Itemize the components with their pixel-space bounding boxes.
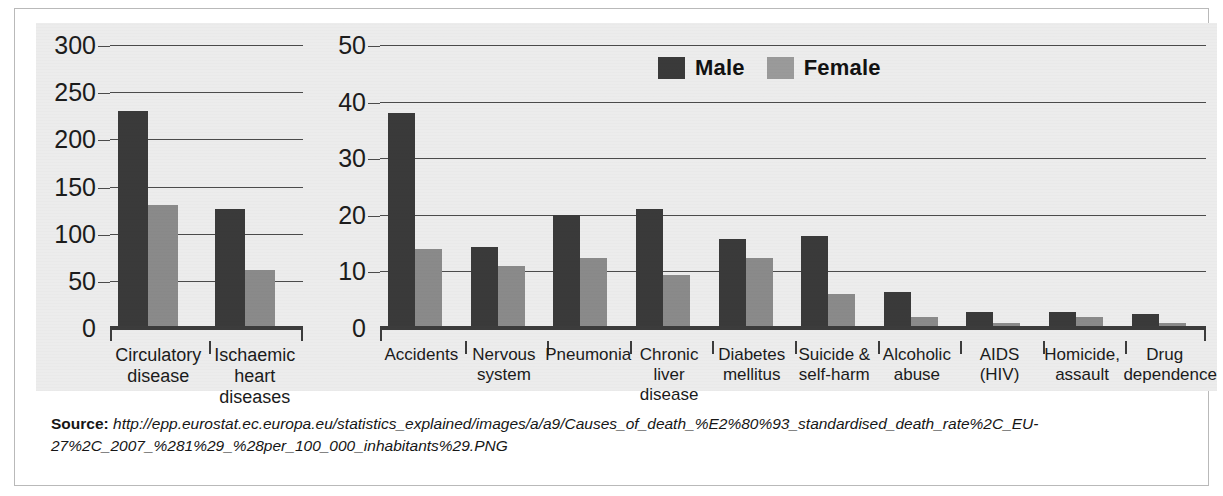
category-label-line: Chronic liver	[628, 345, 711, 385]
source-line-2: 27%2C_2007_%281%29_%28per_100_000_inhabi…	[51, 435, 1201, 457]
category-label-line: system	[463, 365, 546, 385]
y-tick-50	[98, 282, 110, 283]
y-tick-300	[98, 46, 110, 47]
bar-group	[793, 45, 876, 328]
category-label-line: Pneumonia	[545, 345, 628, 365]
category-label-line: heart	[207, 366, 304, 387]
bar-group	[1041, 45, 1124, 328]
category-label: Suicide &self-harm	[793, 345, 876, 385]
category-label: Diabetesmellitus	[710, 345, 793, 385]
bar-group	[710, 45, 793, 328]
category-label: Ischaemicheartdiseases	[207, 345, 304, 408]
source-url-line-1: http://epp.eurostat.ec.europa.eu/statist…	[113, 415, 1038, 432]
bar-group	[1123, 45, 1206, 328]
category-label-line: Nervous	[463, 345, 546, 365]
bar-female[interactable]	[663, 275, 690, 328]
bar-male[interactable]	[719, 239, 746, 328]
left-bars	[110, 45, 303, 328]
category-label-line: disease	[110, 366, 207, 387]
y-tick-30	[368, 159, 380, 160]
y-tick-label-50: 50	[338, 33, 366, 58]
y-tick-20	[368, 216, 380, 217]
category-label-line: assault	[1041, 365, 1124, 385]
bar-female[interactable]	[828, 294, 855, 328]
y-tick-label-150: 150	[54, 174, 96, 199]
bar-male[interactable]	[884, 292, 911, 328]
category-label: Pneumonia	[545, 345, 628, 365]
right-plot-area: 01020304050 AccidentsNervoussystemPneumo…	[380, 45, 1206, 328]
category-label-line: disease	[628, 385, 711, 405]
source-line-1: Source: http://epp.eurostat.ec.europa.eu…	[51, 413, 1201, 435]
bar-female[interactable]	[415, 249, 442, 328]
y-tick-150	[98, 188, 110, 189]
y-tick-label-100: 100	[54, 221, 96, 246]
y-tick-10	[368, 272, 380, 273]
category-label-line: Circulatory	[110, 345, 207, 366]
bar-female[interactable]	[580, 258, 607, 328]
y-tick-200	[98, 140, 110, 141]
bar-group	[463, 45, 546, 328]
category-label-line: Homicide,	[1041, 345, 1124, 365]
category-label-line: Accidents	[380, 345, 463, 365]
bar-male[interactable]	[471, 247, 498, 328]
bar-group	[958, 45, 1041, 328]
bar-group	[628, 45, 711, 328]
y-tick-250	[98, 93, 110, 94]
bar-male[interactable]	[388, 113, 415, 328]
bar-female[interactable]	[746, 258, 773, 328]
chart-plate: 050100150200250300 CirculatorydiseaseIsc…	[36, 23, 1217, 391]
category-label-line: self-harm	[793, 365, 876, 385]
y-tick-label-10: 10	[338, 259, 366, 284]
y-tick-label-0: 0	[82, 316, 96, 341]
y-tick-label-200: 200	[54, 127, 96, 152]
bar-group	[545, 45, 628, 328]
y-tick-label-40: 40	[338, 89, 366, 114]
source-label: Source:	[51, 415, 109, 432]
bar-group	[380, 45, 463, 328]
category-label-line: Drug	[1123, 345, 1206, 365]
bar-male[interactable]	[636, 209, 663, 328]
bar-male[interactable]	[215, 209, 245, 328]
source-caption: Source: http://epp.eurostat.ec.europa.eu…	[51, 413, 1201, 457]
y-tick-label-30: 30	[338, 146, 366, 171]
category-label-line: abuse	[876, 365, 959, 385]
y-tick-label-300: 300	[54, 33, 96, 58]
bar-female[interactable]	[148, 205, 178, 328]
right-bars	[380, 45, 1206, 328]
category-label-line: Diabetes	[710, 345, 793, 365]
category-label-line: dependence	[1123, 365, 1206, 385]
bar-group	[110, 45, 207, 328]
y-tick-label-20: 20	[338, 202, 366, 227]
category-label: Homicide,assault	[1041, 345, 1124, 385]
bar-female[interactable]	[498, 266, 525, 328]
category-label: Chronic liverdisease	[628, 345, 711, 405]
category-label: Alcoholicabuse	[876, 345, 959, 385]
y-tick-label-50: 50	[68, 268, 96, 293]
y-tick-100	[98, 235, 110, 236]
bar-male[interactable]	[801, 236, 828, 328]
source-url-line-2: 27%2C_2007_%281%29_%28per_100_000_inhabi…	[51, 437, 508, 454]
category-label-line: AIDS (HIV)	[958, 345, 1041, 385]
category-label-line: Suicide &	[793, 345, 876, 365]
category-label-line: Ischaemic	[207, 345, 304, 366]
y-tick-40	[368, 103, 380, 104]
y-tick-50	[368, 46, 380, 47]
category-label: Accidents	[380, 345, 463, 365]
bar-female[interactable]	[245, 270, 275, 328]
category-label: AIDS (HIV)	[958, 345, 1041, 385]
category-label-line: diseases	[207, 387, 304, 408]
bar-male[interactable]	[118, 111, 148, 328]
category-label: Drugdependence	[1123, 345, 1206, 385]
figure-root: 050100150200250300 CirculatorydiseaseIsc…	[0, 0, 1223, 496]
category-label: Circulatorydisease	[110, 345, 207, 387]
y-tick-label-0: 0	[352, 316, 366, 341]
category-label: Nervoussystem	[463, 345, 546, 385]
category-label-line: Alcoholic	[876, 345, 959, 365]
figure-frame: 050100150200250300 CirculatorydiseaseIsc…	[14, 8, 1209, 486]
bar-male[interactable]	[553, 215, 580, 328]
left-axis-bracket	[110, 328, 303, 341]
left-chart-panel: 050100150200250300 CirculatorydiseaseIsc…	[36, 23, 318, 391]
y-tick-label-250: 250	[54, 80, 96, 105]
bar-group	[876, 45, 959, 328]
bar-group	[207, 45, 304, 328]
